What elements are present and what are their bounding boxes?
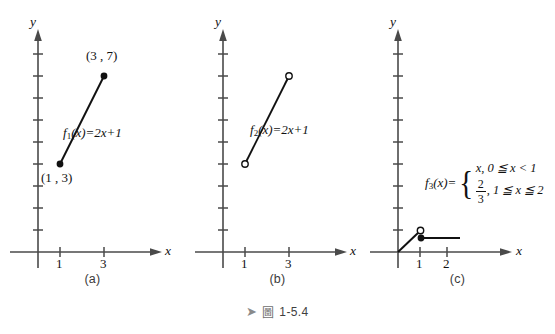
panel-b-plot <box>185 0 370 300</box>
endpoint-open-left <box>242 161 248 167</box>
panel-caption-b: (b) <box>185 272 370 286</box>
function-label-f1: f1(x)=2x+1 <box>63 125 122 141</box>
panel-c: y x 1 2 f3(x)= { x, 0 ≦ x < 1 2 3 , 1 ≦ … <box>360 0 545 300</box>
x-tick-label-3: 3 <box>285 256 292 272</box>
function-body: (x)= <box>433 175 456 190</box>
x-tick-label-3: 3 <box>100 256 107 272</box>
y-axis-label: y <box>215 14 221 30</box>
endpoint-filled-left <box>57 161 64 168</box>
case-2-condition: , 1 ≦ x ≦ 2 <box>487 184 544 198</box>
function-segment <box>247 79 288 161</box>
panel-c-plot <box>360 0 555 300</box>
y-axis-arrowhead <box>394 29 402 41</box>
endpoint-open-at-1 <box>417 227 423 233</box>
x-axis-label: x <box>350 243 356 259</box>
function-label-f2: f2(x)=2x+1 <box>250 122 309 138</box>
fraction-two-thirds: 2 3 <box>476 178 486 205</box>
y-axis-arrowhead <box>34 29 42 41</box>
figure-1-5-4: y x 1 3 (1 , 3) (3 , 7) f1(x)=2x+1 (a) <box>0 0 555 334</box>
function-body: (x)=2x+1 <box>258 122 309 137</box>
panel-a-plot <box>0 0 185 300</box>
piecewise-case-1: x, 0 ≦ x < 1 <box>476 162 544 176</box>
panel-a: y x 1 3 (1 , 3) (3 , 7) f1(x)=2x+1 (a) <box>0 0 185 300</box>
function-segment <box>60 76 104 164</box>
x-tick-label-1: 1 <box>416 256 423 272</box>
figure-number: 1-5.4 <box>279 305 308 319</box>
x-axis-label: x <box>516 243 522 259</box>
function-body: (x)=2x+1 <box>71 125 122 140</box>
y-axis-label: y <box>30 14 36 30</box>
figure-caption-inner: ➤ 圖 1-5.4 <box>246 303 308 320</box>
case-1-condition: , 0 ≦ x < 1 <box>481 162 536 176</box>
figure-glyph: 圖 <box>262 303 274 320</box>
x-tick-label-1: 1 <box>56 256 63 272</box>
x-axis-arrowhead <box>500 248 512 256</box>
segment-identity-piece <box>398 232 419 252</box>
piecewise-case-2: 2 3 , 1 ≦ x ≦ 2 <box>476 178 544 205</box>
fraction-denominator: 3 <box>476 193 486 205</box>
point-label-1-3: (1 , 3) <box>41 170 72 186</box>
endpoint-filled-right <box>101 73 108 80</box>
x-axis-arrowhead <box>335 248 347 256</box>
panel-caption-a: (a) <box>0 272 185 286</box>
x-tick-label-1: 1 <box>241 256 248 272</box>
x-axis-arrowhead <box>150 248 162 256</box>
figure-caption: ➤ 圖 1-5.4 <box>0 303 555 320</box>
function-label-f3: f3(x)= <box>425 175 456 191</box>
panel-b: y x 1 3 f2(x)=2x+1 (b) <box>185 0 370 300</box>
fraction-numerator: 2 <box>476 178 486 190</box>
x-axis-label: x <box>165 243 171 259</box>
y-axis-label: y <box>390 14 396 30</box>
arrow-marker-icon: ➤ <box>246 305 257 318</box>
left-brace-icon: { <box>460 166 474 200</box>
panel-caption-c: (c) <box>360 272 555 286</box>
piecewise-definition-f3: f3(x)= { x, 0 ≦ x < 1 2 3 , 1 ≦ x ≦ 2 <box>425 162 543 205</box>
point-label-3-7: (3 , 7) <box>86 48 117 64</box>
y-axis-arrowhead <box>219 29 227 41</box>
endpoint-open-right <box>286 73 292 79</box>
x-tick-label-2: 2 <box>443 256 450 272</box>
endpoint-filled-at-1 <box>418 235 425 242</box>
piecewise-cases: x, 0 ≦ x < 1 2 3 , 1 ≦ x ≦ 2 <box>476 162 544 205</box>
